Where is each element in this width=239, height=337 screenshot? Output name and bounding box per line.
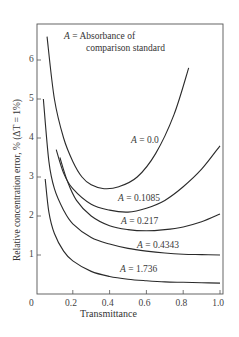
y-tick-label: 3 bbox=[29, 172, 34, 182]
y-axis-label: Relative concentration error, % (ΔT = 1%… bbox=[12, 85, 22, 275]
curve-line bbox=[47, 37, 189, 189]
x-tick-label: 1.0 bbox=[212, 299, 224, 309]
curve-label: A = 0.217 bbox=[121, 217, 158, 227]
curve-label: A = 1.736 bbox=[120, 265, 157, 275]
x-tick-label: 0 bbox=[29, 299, 34, 309]
x-axis-label: Transmittance bbox=[80, 308, 137, 319]
legend-line-1: = Absorbance of bbox=[70, 31, 135, 41]
y-tick-label: 1 bbox=[29, 250, 34, 260]
x-tick-label: 0.6 bbox=[139, 299, 151, 309]
curve-label: A = 0.0 bbox=[131, 136, 159, 146]
y-tick-label: 6 bbox=[29, 55, 34, 65]
curve-label: A = 0.4343 bbox=[137, 241, 179, 251]
axis-ticks bbox=[37, 60, 220, 294]
x-tick-label: 0.8 bbox=[175, 299, 187, 309]
curve-label: A = 0.1085 bbox=[118, 194, 160, 204]
x-tick-label: 0.2 bbox=[65, 299, 77, 309]
y-tick-label: 4 bbox=[29, 133, 34, 143]
legend: A = Absorbance of comparison standard bbox=[64, 30, 165, 54]
y-tick-label: 5 bbox=[29, 94, 34, 104]
curves bbox=[43, 37, 220, 283]
y-tick-label: 2 bbox=[29, 211, 34, 221]
legend-line-2: comparison standard bbox=[64, 42, 165, 54]
